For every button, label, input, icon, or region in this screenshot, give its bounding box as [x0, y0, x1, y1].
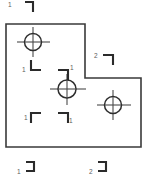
drawing-svg: 1 1 1 2 1 1 1 2: [0, 0, 152, 180]
section-label-top: 1: [8, 1, 12, 8]
technical-drawing-canvas: 1 1 1 2 1 1 1 2: [0, 0, 152, 180]
section-label-bottom-left: 1: [17, 168, 21, 175]
section-label-mid-right: 1: [70, 64, 74, 71]
section-label-mid-left: 1: [22, 66, 26, 73]
section-mark-top: [25, 2, 33, 12]
section-mark-bottom-right: [98, 162, 106, 171]
section-label-low-right: 1: [69, 117, 73, 124]
section-label-right-two: 2: [94, 52, 98, 59]
section-label-low-left: 1: [24, 114, 28, 121]
section-mark-right-two: [103, 55, 113, 65]
section-mark-bottom-left: [26, 162, 34, 171]
section-label-bottom-right: 2: [89, 168, 93, 175]
